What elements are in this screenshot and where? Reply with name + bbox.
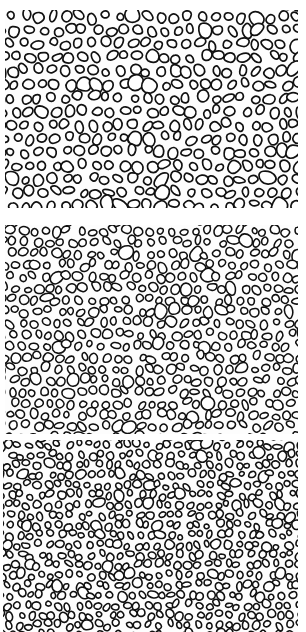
- cell-pattern-panel-bottom: [3, 440, 298, 632]
- grain-outlines: [5, 225, 298, 434]
- cell-pattern-panel-top: [5, 10, 298, 208]
- grain-outlines: [5, 10, 298, 208]
- grain-outlines: [3, 440, 298, 632]
- cell-pattern-panel-middle: [5, 225, 298, 434]
